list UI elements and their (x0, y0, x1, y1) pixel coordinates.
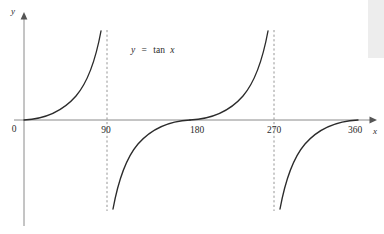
tangent-graph: 0 90 180 270 360 y x y = tan x (0, 0, 384, 234)
scrollbar-strip[interactable] (368, 0, 384, 58)
y-axis-label: y (10, 6, 15, 16)
tan-branch-1 (24, 31, 101, 120)
x-tick-label-270: 270 (267, 125, 282, 135)
x-axis-label: x (372, 126, 377, 136)
origin-label: 0 (12, 124, 17, 134)
curve-equation-label: y = tan x (130, 45, 175, 55)
y-axis-arrowhead (21, 12, 28, 20)
x-axis-arrowhead (370, 117, 378, 124)
tan-branch-3 (190, 31, 268, 120)
figure-root: 0 90 180 270 360 y x y = tan x (0, 0, 384, 234)
tan-branch-2 (113, 120, 190, 209)
x-tick-label-360: 360 (348, 125, 363, 135)
x-tick-label-180: 180 (190, 125, 205, 135)
equation-y-symbol: y (130, 45, 136, 55)
tan-branch-4 (280, 120, 358, 209)
svg-text:y = tan: y = tan x (130, 45, 175, 55)
equation-tan: tan (153, 45, 165, 55)
equation-x-symbol: x (169, 45, 175, 55)
equation-equals: = (142, 45, 147, 55)
x-tick-label-90: 90 (101, 125, 111, 135)
